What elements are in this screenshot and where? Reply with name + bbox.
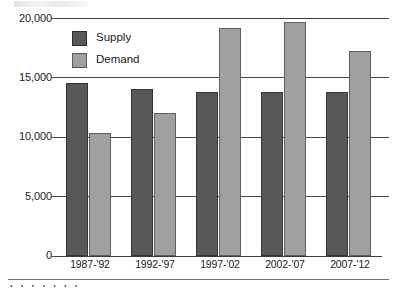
x-axis-labels: 1987-'92 1992-'97 1997-'02 2002-'07 2007… — [58, 259, 382, 275]
legend-label-demand: Demand — [96, 54, 139, 66]
bar-group-1997-02 — [196, 18, 244, 256]
x-tick-label-1997-02: 1997-'02 — [188, 259, 252, 270]
bar-demand-1992-97 — [154, 113, 176, 256]
bar-supply-1992-97 — [131, 89, 153, 256]
y-tick-left-15000 — [51, 77, 58, 78]
x-tick-label-2002-07: 2002-'07 — [253, 259, 317, 270]
chart-legend: Supply Demand — [72, 27, 192, 71]
y-tick-right-20000 — [382, 18, 389, 19]
x-tick-label-1987-92: 1987-'92 — [58, 259, 122, 270]
bar-demand-1997-02 — [219, 28, 241, 256]
y-tick-label-0: 0 — [0, 250, 52, 261]
legend-swatch-supply-icon — [72, 31, 87, 46]
legend-item-demand: Demand — [72, 49, 192, 71]
y-tick-label-10000: 10,000 — [0, 131, 52, 142]
bar-supply-2002-07 — [261, 92, 283, 256]
y-tick-left-5000 — [51, 196, 58, 197]
gridline-baseline-0 — [58, 256, 382, 257]
y-tick-left-10000 — [51, 137, 58, 138]
y-axis-labels: 20,000 15,000 10,000 5,000 0 — [0, 18, 52, 256]
y-tick-label-5000: 5,000 — [0, 191, 52, 202]
y-tick-left-20000 — [51, 18, 58, 19]
legend-swatch-demand-icon — [72, 53, 87, 68]
y-tick-right-5000 — [382, 196, 389, 197]
clipped-caption-bottom: l l l l l l l — [10, 285, 390, 293]
y-tick-left-0 — [51, 256, 58, 257]
bar-group-2002-07 — [261, 18, 309, 256]
x-tick-label-2007-12: 2007-'12 — [318, 259, 382, 270]
legend-item-supply: Supply — [72, 27, 192, 49]
bar-supply-2007-12 — [326, 92, 348, 256]
bar-demand-2002-07 — [284, 22, 306, 256]
legend-label-supply: Supply — [96, 32, 131, 44]
y-tick-right-10000 — [382, 137, 389, 138]
x-tick-label-1992-97: 1992-'97 — [123, 259, 187, 270]
bar-chart-figure: 20,000 15,000 10,000 5,000 0 — [0, 0, 400, 293]
clipped-caption-top — [14, 1, 88, 7]
bar-demand-2007-12 — [349, 51, 371, 256]
bar-supply-1987-92 — [66, 83, 88, 256]
bar-demand-1987-92 — [89, 133, 111, 256]
clipped-caption-text: l l l l l l l — [10, 285, 80, 290]
y-tick-label-15000: 15,000 — [0, 72, 52, 83]
figure-bottom-rule — [8, 279, 389, 280]
bar-group-2007-12 — [326, 18, 374, 256]
y-tick-right-15000 — [382, 77, 389, 78]
bar-supply-1997-02 — [196, 92, 218, 256]
y-tick-label-20000: 20,000 — [0, 13, 52, 24]
